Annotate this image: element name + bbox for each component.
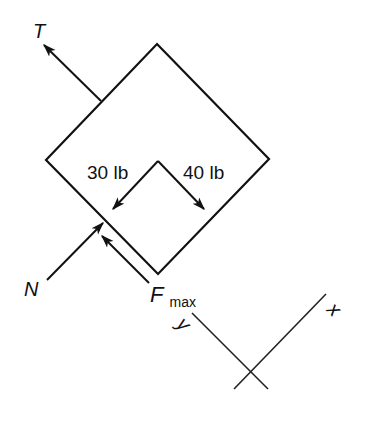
coordinate-axes: y x [171, 294, 346, 389]
friction-symbol: F [150, 282, 165, 307]
y-axis-label: y [171, 311, 196, 336]
x-axis-line [234, 294, 326, 389]
normal-force: N [24, 223, 103, 300]
normal-label: N [24, 278, 39, 300]
weight-component-30-label: 30 lb [87, 162, 128, 183]
weight-components: 30 lb 40 lb [87, 161, 224, 209]
friction-arrow-icon [102, 236, 149, 283]
weight-component-40-label: 40 lb [183, 162, 224, 183]
friction-force: F max [102, 236, 196, 310]
tension-arrow-icon [44, 45, 101, 101]
x-axis-label: x [323, 297, 347, 321]
tension-force: T [33, 20, 101, 101]
free-body-diagram: T 30 lb 40 lb N F max y x [0, 0, 365, 422]
y-axis-line [192, 313, 268, 389]
friction-label: F max [150, 282, 196, 310]
tension-label: T [33, 20, 47, 42]
friction-subscript: max [170, 294, 196, 310]
normal-arrow-icon [47, 223, 103, 280]
